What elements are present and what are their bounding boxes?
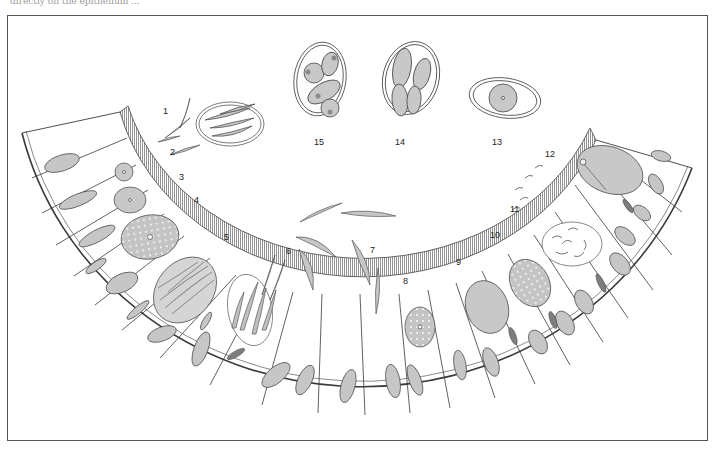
stage-13-oocyst	[467, 73, 544, 123]
label-stage-7: 7	[370, 245, 375, 255]
label-stage-5: 5	[224, 232, 229, 242]
stage-15-oocyst	[289, 39, 351, 120]
label-stage-8: 8	[403, 276, 408, 286]
label-stage-9: 9	[456, 257, 461, 267]
label-stage-1: 1	[163, 106, 168, 116]
label-stage-13: 13	[492, 137, 502, 147]
label-stage-14: 14	[395, 137, 405, 147]
label-stage-15: 15	[314, 137, 324, 147]
label-stage-3: 3	[179, 172, 184, 182]
label-stage-2: 2	[170, 147, 175, 157]
life-cycle-diagram: 1 2 3 4 5 6 7 8 9 10 11 12 13 14 15	[0, 0, 716, 461]
label-stage-10: 10	[490, 230, 500, 240]
label-stage-6: 6	[286, 246, 291, 256]
stage-1-sporulated-oocyst	[196, 102, 264, 146]
label-stage-11: 11	[510, 204, 519, 214]
stage-14-oocyst	[374, 35, 447, 121]
label-stage-4: 4	[194, 195, 199, 205]
label-stage-12: 12	[545, 149, 555, 159]
merozoite-cluster	[222, 271, 278, 350]
